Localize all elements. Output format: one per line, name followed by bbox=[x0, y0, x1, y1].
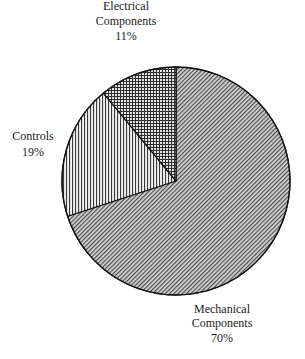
label-controls-value: 19% bbox=[22, 145, 44, 159]
label-electrical-line1: Electrical bbox=[103, 0, 150, 13]
label-mechanical-line1: Mechanical bbox=[194, 302, 251, 316]
label-mechanical-components: Mechanical Components 70% bbox=[192, 302, 253, 345]
label-mechanical-value: 70% bbox=[211, 331, 233, 345]
label-electrical-components: Electrical Components 11% bbox=[96, 0, 157, 43]
pie-slices bbox=[62, 67, 290, 295]
label-electrical-line2: Components bbox=[96, 14, 157, 28]
label-electrical-value: 11% bbox=[115, 29, 137, 43]
label-controls-line1: Controls bbox=[12, 129, 54, 143]
label-controls: Controls 19% bbox=[12, 129, 54, 159]
label-mechanical-line2: Components bbox=[192, 316, 253, 330]
pie-chart: Electrical Components 11% Controls 19% M… bbox=[0, 0, 305, 359]
